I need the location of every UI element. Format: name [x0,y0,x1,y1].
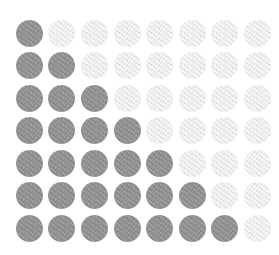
dot-filled [81,182,108,209]
dot-cell [13,115,46,148]
dot-cell [209,147,242,180]
dot-cell [143,180,176,213]
dot-cell [176,50,209,83]
dot-cell [209,180,242,213]
dot-empty [211,182,238,209]
dot-cell [209,115,242,148]
dot-cell [241,212,274,245]
dot-cell [78,82,111,115]
dot-cell [111,147,144,180]
dot-empty [211,150,238,177]
dot-filled [81,85,108,112]
dot-filled [179,182,206,209]
dot-cell [111,180,144,213]
dot-cell [241,17,274,50]
dot-filled [114,150,141,177]
dot-cell [78,212,111,245]
dot-cell [143,82,176,115]
dot-filled [146,182,173,209]
dot-empty [244,182,271,209]
dot-filled [16,52,43,79]
dot-filled [179,215,206,242]
dot-empty [179,150,206,177]
dot-empty [146,52,173,79]
dot-cell [78,17,111,50]
dot-cell [143,17,176,50]
dot-empty [114,85,141,112]
dot-empty [81,52,108,79]
dot-empty [244,150,271,177]
dot-empty [244,20,271,47]
dot-cell [111,82,144,115]
dot-cell [241,147,274,180]
dot-cell [13,50,46,83]
dot-empty [179,20,206,47]
dot-empty [179,85,206,112]
dot-empty [179,117,206,144]
dot-empty [211,117,238,144]
dot-cell [209,17,242,50]
dot-cell [143,212,176,245]
dot-cell [209,50,242,83]
dot-cell [13,17,46,50]
dot-empty [244,117,271,144]
dot-cell [46,147,79,180]
dot-filled [48,215,75,242]
dot-cell [209,212,242,245]
dot-cell [241,115,274,148]
dot-filled [48,150,75,177]
dot-empty [146,85,173,112]
dot-filled [114,117,141,144]
dot-cell [13,212,46,245]
dot-cell [241,180,274,213]
dot-filled [48,85,75,112]
dot-empty [114,52,141,79]
dot-cell [78,115,111,148]
dot-cell [46,82,79,115]
dot-cell [176,115,209,148]
dot-empty [211,52,238,79]
dot-cell [111,212,144,245]
dot-filled [81,215,108,242]
dot-filled [114,215,141,242]
dot-cell [13,180,46,213]
dot-filled [114,182,141,209]
dot-filled [146,150,173,177]
dot-cell [13,82,46,115]
dot-cell [176,17,209,50]
dot-cell [176,147,209,180]
dot-empty [211,85,238,112]
dot-empty [146,20,173,47]
dot-filled [146,215,173,242]
dot-cell [143,50,176,83]
dot-cell [209,82,242,115]
dot-filled [81,150,108,177]
dot-filled [16,20,43,47]
dot-cell [46,115,79,148]
dot-filled [48,117,75,144]
dot-cell [13,147,46,180]
dot-filled [16,215,43,242]
dot-empty [146,117,173,144]
dot-grid [13,17,270,245]
dot-cell [143,115,176,148]
dot-empty [211,20,238,47]
dot-cell [111,115,144,148]
dot-cell [46,212,79,245]
dot-cell [78,50,111,83]
dot-filled [48,182,75,209]
dot-filled [211,215,238,242]
dot-cell [111,50,144,83]
dot-empty [179,52,206,79]
dot-empty [114,20,141,47]
dot-filled [16,182,43,209]
dot-filled [16,117,43,144]
dot-empty [244,85,271,112]
dot-empty [244,215,271,242]
dot-empty [81,20,108,47]
dot-cell [46,180,79,213]
dot-matrix-figure [0,0,279,255]
dot-cell [176,180,209,213]
dot-filled [81,117,108,144]
dot-cell [241,50,274,83]
